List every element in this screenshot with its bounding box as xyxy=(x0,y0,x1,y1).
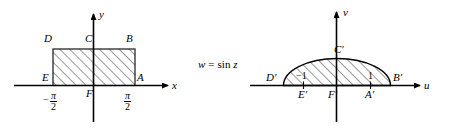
vertex-label-d: D xyxy=(44,33,52,44)
equation-equals: = xyxy=(208,58,214,70)
denominator-two: 2 xyxy=(124,102,131,112)
u-axis-label: u xyxy=(424,80,430,91)
minus-sign: − xyxy=(43,95,49,105)
w-plane-group xyxy=(250,12,420,122)
vertex-label-f-prime: F′ xyxy=(328,89,337,100)
vertex-label-a-prime: A′ xyxy=(365,89,374,100)
z-plane-group xyxy=(14,14,168,122)
vertex-label-c: C xyxy=(85,33,92,44)
vertex-label-d-prime: D′ xyxy=(266,72,276,83)
equation-w: w xyxy=(198,58,205,70)
tick-value-one: 1 xyxy=(368,70,373,81)
vertex-label-e-prime: E′ xyxy=(298,89,307,100)
y-axis-label: y xyxy=(99,9,104,20)
denominator-two: 2 xyxy=(50,102,57,112)
tick-label-pi-over-2: π 2 xyxy=(124,91,131,112)
tick-value-minus-one: −1 xyxy=(296,70,307,81)
vertex-label-b: B xyxy=(126,33,133,44)
vertex-label-e: E xyxy=(42,72,49,83)
x-axis-label: x xyxy=(172,80,177,91)
vertex-label-a: A xyxy=(137,72,144,83)
vertex-label-f: F xyxy=(86,88,93,99)
v-axis-label: v xyxy=(343,7,348,18)
mapping-equation: w=sin z xyxy=(198,58,237,70)
vertex-label-c-prime: C′ xyxy=(334,44,344,55)
equation-z: z xyxy=(233,58,237,70)
vertex-label-b-prime: B′ xyxy=(393,72,402,83)
conformal-mapping-figure: y x D C B E A F − π 2 π 2 w=sin z v u C′… xyxy=(0,0,453,132)
equation-sin: sin xyxy=(218,58,231,70)
tick-label-minus-pi-over-2: − π 2 xyxy=(50,91,57,112)
